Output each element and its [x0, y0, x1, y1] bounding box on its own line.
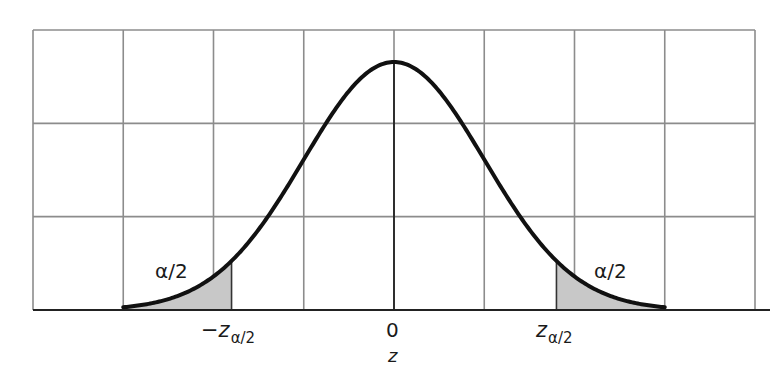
upper-critical-value-label: zα/2 — [536, 318, 573, 342]
lower-critical-value-label: −zα/2 — [201, 318, 255, 342]
upper-critical-value-subscript: α/2 — [548, 329, 573, 347]
zero-tick-label: 0 — [386, 318, 399, 342]
lower-critical-value-main: −z — [201, 318, 230, 342]
right-tail-label: α/2 — [594, 259, 627, 283]
lower-critical-value-subscript: α/2 — [231, 329, 256, 347]
upper-critical-value-main: z — [536, 318, 547, 342]
left-tail-label: α/2 — [155, 259, 188, 283]
x-axis-title: z — [388, 345, 397, 366]
